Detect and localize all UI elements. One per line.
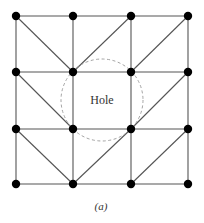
mesh-node [184, 12, 192, 20]
mesh-node [127, 68, 135, 76]
mesh-edge [131, 129, 188, 184]
mesh-node [12, 12, 20, 20]
mesh-node [127, 12, 135, 20]
mesh-node [12, 125, 20, 133]
figure-caption: (a) [95, 200, 108, 213]
mesh-node [184, 180, 192, 188]
mesh-node [184, 68, 192, 76]
mesh-node [12, 180, 20, 188]
mesh-node [184, 125, 192, 133]
mesh-edge [16, 129, 73, 184]
mesh-node [127, 125, 135, 133]
mesh-node [69, 125, 77, 133]
mesh-edge [73, 16, 131, 72]
mesh-diagram: Hole (a) [0, 0, 204, 223]
mesh-edge [16, 72, 73, 129]
mesh-node [69, 12, 77, 20]
mesh-node [12, 68, 20, 76]
mesh-edge [131, 16, 188, 72]
mesh-node [69, 180, 77, 188]
mesh-edge [16, 16, 73, 72]
hole-label: Hole [90, 93, 113, 107]
mesh-node [127, 180, 135, 188]
mesh-edge [131, 72, 188, 129]
mesh-edge [73, 129, 131, 184]
mesh-node [69, 68, 77, 76]
